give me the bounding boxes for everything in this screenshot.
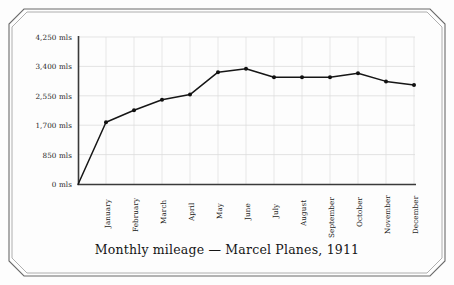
y-tick-label-3400: 3,400 mls [20,62,72,71]
y-tick-label-0: 0 mls [20,180,72,189]
y-tick-label-2550: 2,550 mls [20,92,72,101]
chart-area: 4,250 mls 3,400 mls 2,550 mls 1,700 mls … [0,0,454,285]
x-tick-label-july: July [271,204,280,218]
x-tick-label-april: April [187,203,196,221]
x-tick-label-november: November [383,195,392,234]
chart-page: 4,250 mls 3,400 mls 2,550 mls 1,700 mls … [0,0,454,285]
y-tick-label-850: 850 mls [20,151,72,160]
x-tick-label-december: December [411,196,420,234]
y-tick-label-1700: 1,700 mls [20,121,72,130]
y-tick-label-4250: 4,250 mls [20,33,72,42]
x-tick-label-september: September [327,197,336,238]
x-tick-label-october: October [355,197,364,227]
vertical-gridlines [106,37,414,184]
x-tick-label-march: March [159,200,168,224]
x-tick-label-june: June [243,203,252,220]
x-tick-label-february: February [131,198,140,232]
chart-title: Monthly mileage — Marcel Planes, 1911 [0,242,454,257]
x-tick-label-january: January [103,199,112,228]
x-tick-label-august: August [299,200,308,226]
horizontal-gridlines [78,37,415,155]
x-tick-label-may: May [215,203,224,219]
